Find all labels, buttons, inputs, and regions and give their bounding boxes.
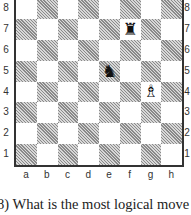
rank-label-right: 7 — [182, 23, 191, 34]
square-b4 — [37, 82, 58, 103]
file-label: d — [78, 169, 98, 180]
square-b5 — [37, 61, 58, 82]
square-c2 — [58, 123, 79, 144]
question-caption: 8) What is the most logical move fo — [0, 196, 191, 213]
square-a4 — [16, 82, 37, 103]
square-d4 — [78, 82, 99, 103]
square-h8 — [161, 0, 182, 19]
square-b2 — [37, 123, 58, 144]
square-d2 — [78, 123, 99, 144]
square-c8 — [58, 0, 79, 19]
rank-label-right: 6 — [182, 44, 191, 55]
file-label: g — [141, 169, 161, 180]
square-c3 — [58, 102, 79, 123]
square-e4 — [99, 82, 120, 103]
square-c5 — [58, 61, 79, 82]
square-d5 — [78, 61, 99, 82]
square-b8 — [37, 0, 58, 19]
square-g3 — [141, 102, 162, 123]
rank-label-left: 6 — [1, 44, 11, 55]
square-c1 — [58, 144, 79, 165]
rank-label-left: 2 — [1, 127, 11, 138]
square-f1 — [120, 144, 141, 165]
square-b1 — [37, 144, 58, 165]
square-g2 — [141, 123, 162, 144]
square-e2 — [99, 123, 120, 144]
file-label: b — [37, 169, 57, 180]
rank-label-left: 4 — [1, 86, 11, 97]
square-a2 — [16, 123, 37, 144]
square-a7 — [16, 19, 37, 40]
square-b6 — [37, 40, 58, 61]
square-a5 — [16, 61, 37, 82]
file-label: f — [120, 169, 140, 180]
square-e7 — [99, 19, 120, 40]
square-f2 — [120, 123, 141, 144]
rank-label-right: 3 — [182, 106, 191, 117]
square-e3 — [99, 102, 120, 123]
square-e8 — [99, 0, 120, 19]
square-g5 — [141, 61, 162, 82]
square-h6 — [161, 40, 182, 61]
square-a1 — [16, 144, 37, 165]
square-b7 — [37, 19, 58, 40]
square-a3 — [16, 102, 37, 123]
white-bishop-icon: ♗ — [141, 82, 162, 103]
rank-label-right: 1 — [182, 148, 191, 159]
square-d7 — [78, 19, 99, 40]
square-f6 — [120, 40, 141, 61]
rank-label-right: 4 — [182, 86, 191, 97]
square-h5 — [161, 61, 182, 82]
square-d3 — [78, 102, 99, 123]
square-c7 — [58, 19, 79, 40]
square-f5 — [120, 61, 141, 82]
square-a6 — [16, 40, 37, 61]
chess-board: ♜♞♗ — [14, 0, 184, 167]
rank-label-right: 5 — [182, 65, 191, 76]
rank-label-left: 1 — [1, 148, 11, 159]
file-label: a — [16, 169, 36, 180]
square-g7 — [141, 19, 162, 40]
square-f4 — [120, 82, 141, 103]
file-label: c — [58, 169, 78, 180]
file-label: h — [161, 169, 181, 180]
square-g1 — [141, 144, 162, 165]
square-d6 — [78, 40, 99, 61]
square-d1 — [78, 144, 99, 165]
rank-label-right: 8 — [182, 2, 191, 13]
square-c6 — [58, 40, 79, 61]
square-h2 — [161, 123, 182, 144]
rank-label-left: 3 — [1, 106, 11, 117]
black-rook-icon: ♜ — [120, 19, 141, 40]
square-b3 — [37, 102, 58, 123]
square-h1 — [161, 144, 182, 165]
file-label: e — [99, 169, 119, 180]
rank-label-left: 8 — [1, 2, 11, 13]
square-h4 — [161, 82, 182, 103]
square-e1 — [99, 144, 120, 165]
square-a8 — [16, 0, 37, 19]
square-f8 — [120, 0, 141, 19]
square-f3 — [120, 102, 141, 123]
square-c4 — [58, 82, 79, 103]
square-g6 — [141, 40, 162, 61]
rank-label-left: 5 — [1, 65, 11, 76]
square-g8 — [141, 0, 162, 19]
rank-label-right: 2 — [182, 127, 191, 138]
rank-label-left: 7 — [1, 23, 11, 34]
square-e6 — [99, 40, 120, 61]
square-h7 — [161, 19, 182, 40]
square-d8 — [78, 0, 99, 19]
black-knight-icon: ♞ — [99, 61, 120, 82]
square-h3 — [161, 102, 182, 123]
